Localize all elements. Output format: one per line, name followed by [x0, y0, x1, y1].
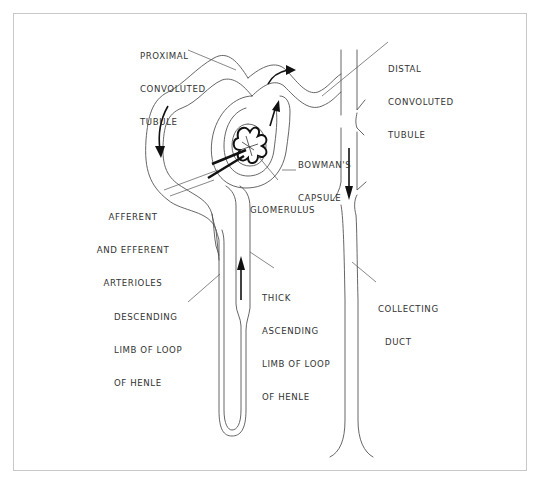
- label-line: THICK: [262, 293, 330, 304]
- label-line: OF HENLE: [262, 392, 330, 403]
- label-line: TUBULE: [140, 117, 206, 128]
- label-thick-ascending-limb: THICK ASCENDING LIMB OF LOOP OF HENLE: [262, 271, 330, 425]
- label-line: DESCENDING: [114, 312, 182, 323]
- distal-convoluted-tubule: [248, 65, 341, 107]
- label-line: CONVOLUTED: [140, 84, 206, 95]
- label-line: AFFERENT: [90, 212, 176, 223]
- label-descending-limb: DESCENDING LIMB OF LOOP OF HENLE: [114, 290, 182, 411]
- label-line: PROXIMAL: [140, 51, 206, 62]
- leader-afferent: [164, 170, 218, 190]
- label-distal-convoluted-tubule: DISTAL CONVOLUTED TUBULE: [388, 42, 454, 163]
- loop-of-henle: [212, 186, 250, 436]
- arrow-ascending-up-head: [237, 256, 245, 270]
- leader-efferent: [170, 180, 214, 196]
- leader-distal: [322, 42, 388, 96]
- leader-thick-ascending: [250, 252, 274, 268]
- label-line: CONVOLUTED: [388, 97, 454, 108]
- leader-glomerulus: [258, 156, 278, 180]
- label-line: COLLECTING: [378, 304, 439, 315]
- leader-collecting: [352, 262, 376, 282]
- label-collecting-duct: COLLECTING DUCT: [378, 282, 439, 370]
- label-line: DUCT: [378, 337, 439, 348]
- label-line: AND EFFERENT: [90, 245, 176, 256]
- label-line: TUBULE: [388, 130, 454, 141]
- label-line: DISTAL: [388, 64, 454, 75]
- label-line: ASCENDING: [262, 326, 330, 337]
- arrow-capsule-up-head: [272, 100, 280, 112]
- nephron-diagram: PROXIMAL CONVOLUTED TUBULE DISTAL CONVOL…: [0, 0, 541, 480]
- label-line: OF HENLE: [114, 378, 182, 389]
- label-line: LIMB OF LOOP: [262, 359, 330, 370]
- arrow-proximal-right: [268, 70, 288, 84]
- label-glomerulus: GLOMERULUS: [250, 183, 315, 238]
- leader-descending: [188, 274, 220, 302]
- label-line: BOWMAN'S: [298, 160, 351, 171]
- collecting-duct: [330, 50, 373, 457]
- arrow-proximal-right-head: [286, 65, 296, 75]
- label-line: ARTERIOLES: [90, 278, 176, 289]
- label-line: LIMB OF LOOP: [114, 345, 182, 356]
- label-proximal-convoluted-tubule: PROXIMAL CONVOLUTED TUBULE: [140, 29, 206, 150]
- glomerulus: [234, 128, 267, 163]
- label-line: GLOMERULUS: [250, 205, 315, 216]
